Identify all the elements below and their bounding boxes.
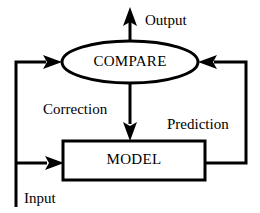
- diagram-canvas: MODEL COMPARE Output Correction Predicti…: [0, 0, 260, 213]
- input-label: Input: [24, 190, 56, 206]
- correction-arrow: [123, 82, 137, 141]
- input-arrow: [16, 156, 64, 170]
- feedback-loop-diagram: MODEL COMPARE Output Correction Predicti…: [0, 0, 260, 213]
- compare-node-label: COMPARE: [93, 53, 166, 69]
- feedback-correction-path: [16, 55, 62, 207]
- correction-label: Correction: [43, 101, 108, 117]
- prediction-path-line: [205, 62, 246, 163]
- prediction-label: Prediction: [167, 116, 229, 132]
- model-node[interactable]: MODEL: [63, 141, 205, 180]
- model-node-label: MODEL: [107, 151, 162, 167]
- feedback-path-line: [16, 62, 46, 207]
- output-arrow: [123, 7, 137, 42]
- output-label: Output: [145, 12, 188, 28]
- compare-node[interactable]: COMPARE: [62, 41, 198, 83]
- input-arrowhead: [45, 156, 64, 170]
- correction-arrowhead: [123, 122, 137, 141]
